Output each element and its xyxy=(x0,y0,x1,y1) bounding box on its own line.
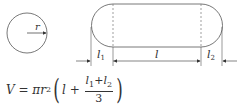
denominator: 3 xyxy=(95,92,102,105)
cross-section-circle: r xyxy=(7,13,47,53)
l-label: l xyxy=(155,48,159,61)
radius-label: r xyxy=(35,21,41,32)
volume-formula: V = π r2 ( l + l1+l2 3 ) xyxy=(6,74,125,105)
l2-label: l2 xyxy=(207,48,215,62)
capsule-shape: l1 l l2 xyxy=(76,4,237,66)
fraction: l1+l2 3 xyxy=(85,74,113,105)
l1-label: l1 xyxy=(97,48,105,62)
numerator: l1+l2 xyxy=(85,74,113,92)
close-paren: ) xyxy=(116,76,123,104)
open-paren: ( xyxy=(53,76,60,104)
